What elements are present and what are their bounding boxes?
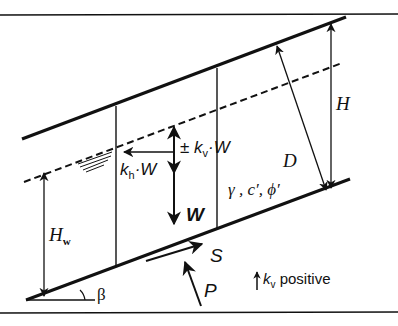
label-S: S bbox=[210, 245, 223, 266]
label-W: W bbox=[186, 204, 206, 225]
label-kv-w: ± kv·W bbox=[180, 138, 232, 159]
infinite-slope-diagram: H D Hw β ± kv·W kh·W W γ , c′, ϕ′ S P kv… bbox=[0, 0, 398, 326]
label-soil-params: γ , c′, ϕ′ bbox=[228, 180, 280, 199]
legend-kv-positive: kv positive bbox=[263, 270, 331, 290]
slope-surface-line bbox=[22, 17, 346, 139]
label-beta: β bbox=[97, 285, 106, 304]
bottom-rule bbox=[0, 312, 398, 313]
top-rule bbox=[0, 14, 398, 15]
label-D: D bbox=[282, 150, 297, 171]
beta-arc bbox=[80, 290, 85, 300]
label-P: P bbox=[204, 280, 217, 301]
label-Hw: Hw bbox=[48, 224, 71, 247]
water-table-symbol bbox=[78, 152, 112, 172]
normal-force-arrow bbox=[185, 262, 201, 306]
label-kh-w: kh·W bbox=[120, 160, 158, 181]
label-H: H bbox=[335, 93, 351, 114]
